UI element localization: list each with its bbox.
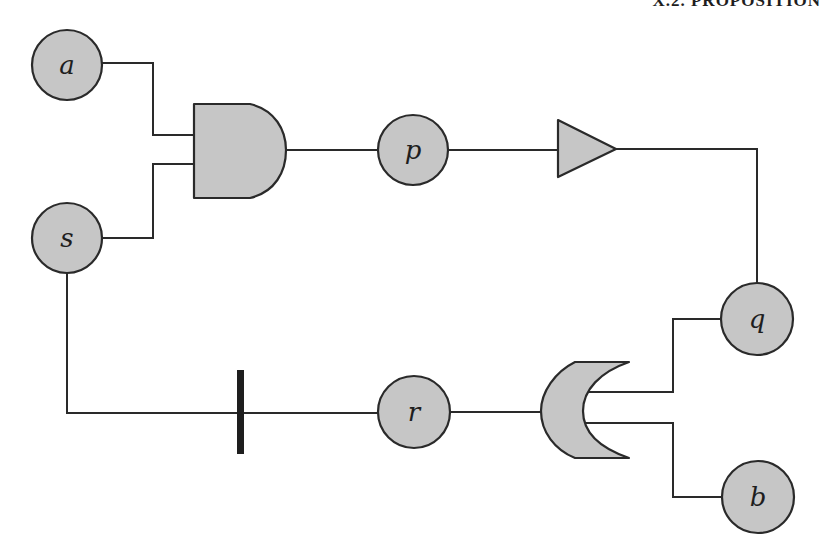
- node-p-label: p: [405, 135, 422, 165]
- wire-buffer-to-q: [616, 149, 757, 283]
- or-gate: [541, 362, 629, 458]
- wire-s-to-and: [102, 164, 194, 238]
- node-q: q: [721, 283, 793, 355]
- wire-q-to-or: [585, 319, 721, 392]
- node-a: a: [32, 30, 102, 100]
- and-gate: [194, 104, 286, 198]
- buffer-gate: [558, 120, 616, 177]
- node-b-label: b: [750, 482, 767, 512]
- node-s: s: [32, 203, 102, 273]
- wire-b-to-or: [585, 423, 722, 497]
- node-r: r: [378, 376, 450, 448]
- node-s-label: s: [60, 223, 73, 253]
- wire-s-to-r: [67, 273, 378, 413]
- wire-a-to-and: [102, 63, 194, 135]
- node-r-label: r: [408, 397, 422, 427]
- logic-circuit-diagram: a s p q r b: [0, 0, 823, 557]
- negation-bar: [237, 370, 244, 454]
- node-q-label: q: [749, 304, 766, 334]
- node-b: b: [722, 461, 794, 533]
- node-a-label: a: [59, 50, 75, 80]
- node-p: p: [378, 115, 448, 185]
